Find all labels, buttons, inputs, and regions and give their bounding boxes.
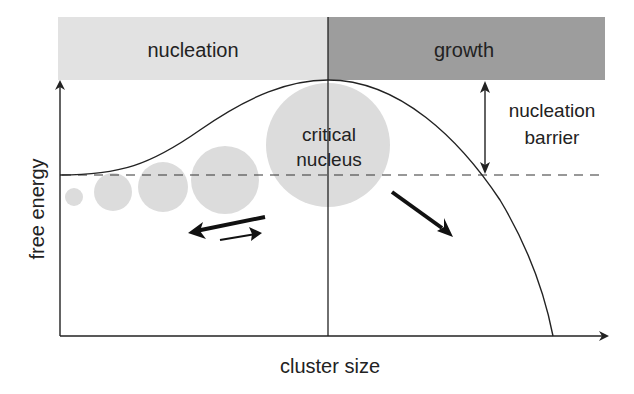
growth-region-label: growth bbox=[434, 39, 494, 61]
nucleation-diagram: nucleation growth critical nucleus nucle… bbox=[0, 0, 634, 394]
x-axis-label: cluster size bbox=[280, 355, 380, 377]
barrier-label-2: barrier bbox=[525, 127, 581, 148]
growth-region: growth bbox=[328, 17, 605, 80]
cluster-4 bbox=[191, 146, 259, 214]
cluster-3 bbox=[138, 162, 188, 212]
cluster-1 bbox=[65, 188, 83, 206]
grow-arrow-small bbox=[220, 227, 262, 241]
barrier-arrow bbox=[480, 81, 490, 174]
cluster-2 bbox=[94, 173, 132, 211]
critical-nucleus-label-2: nucleus bbox=[296, 149, 362, 170]
critical-nucleus-label-1: critical bbox=[302, 124, 356, 145]
barrier-label-1: nucleation bbox=[509, 100, 596, 121]
y-axis-label: free energy bbox=[26, 158, 48, 259]
nucleation-region-label: nucleation bbox=[147, 39, 238, 61]
growth-arrow bbox=[392, 192, 453, 237]
nucleation-region: nucleation bbox=[58, 17, 328, 80]
